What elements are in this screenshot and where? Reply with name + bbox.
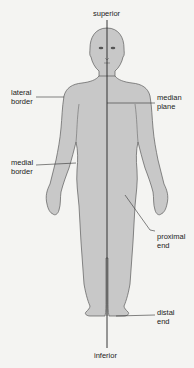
label-lateral-border: lateral border [11,89,33,106]
label-medial-border: medial border [11,159,33,176]
label-proximal-end: proximal end [157,233,185,250]
label-inferior: inferior [94,352,117,361]
right-eye [111,47,116,50]
label-superior: superior [93,10,120,19]
label-distal-end: distal end [157,309,175,326]
label-median-plane: median plane [157,94,182,111]
left-eye [99,47,104,50]
